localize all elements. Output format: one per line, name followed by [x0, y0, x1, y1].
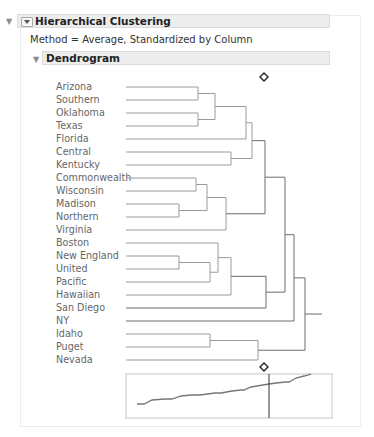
cluster-diamond-top-icon[interactable] — [260, 73, 268, 81]
cluster-diamond-bottom-icon[interactable] — [260, 363, 268, 371]
dendrogram-plot — [0, 0, 374, 437]
distance-graph-frame — [126, 374, 332, 418]
